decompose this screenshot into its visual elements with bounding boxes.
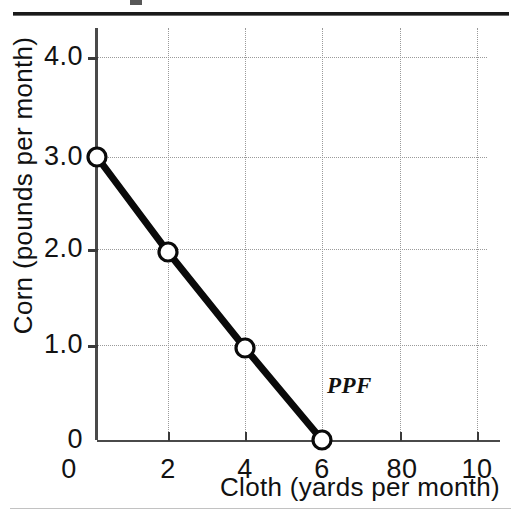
clipped-caption-fragment <box>130 0 142 5</box>
ppf-point-1 <box>159 243 177 261</box>
ppf-annotation-label: PPF <box>327 373 372 399</box>
y-axis-title: Corn (pounds per month) <box>6 35 42 335</box>
y-axis-title-text: Corn (pounds per month) <box>9 36 40 333</box>
figure-container: Corn (pounds per month) Cloth (yards per… <box>0 0 521 517</box>
x-tick-label-0: 0 <box>61 454 77 485</box>
bottom-divider-rule <box>10 508 511 509</box>
ppf-point-3 <box>313 431 331 449</box>
ppf-line <box>97 157 322 440</box>
ppf-series <box>77 8 517 468</box>
ppf-point-0 <box>88 148 106 166</box>
ppf-point-2 <box>236 339 254 357</box>
